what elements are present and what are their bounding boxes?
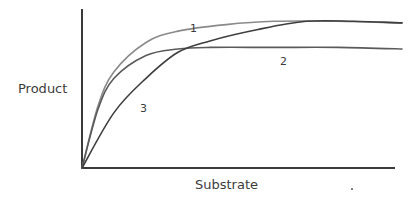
curve-2-label: 2: [280, 55, 287, 68]
curve-3-label: 3: [140, 102, 147, 115]
stray-dot: [351, 188, 353, 190]
curve-2: [82, 47, 402, 168]
x-axis-label: Substrate: [195, 177, 258, 192]
curve-1-label: 1: [190, 22, 197, 35]
curve-3: [82, 21, 402, 168]
y-axis-label: Product: [18, 81, 67, 96]
chart-plot-area: [0, 0, 415, 201]
